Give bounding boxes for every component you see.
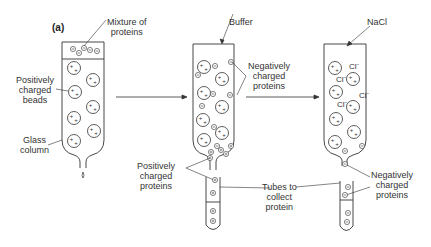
label-line: Positively <box>16 75 54 85</box>
ion-exchange-diagram: + + <box>0 0 431 247</box>
tube-2-proteins <box>210 177 217 223</box>
label-tubes-to-collect-protein: Tubes to collect protein <box>262 182 297 212</box>
label-line: charged <box>16 85 54 95</box>
label-negatively-charged-proteins-1: Negatively charged proteins <box>248 61 290 91</box>
svg-text:Cl−: Cl− <box>349 61 360 71</box>
label-buffer: Buffer <box>229 17 253 27</box>
column-2-positive-proteins <box>207 143 233 160</box>
label-line: beads <box>16 95 54 105</box>
label-positively-charged-proteins: Positively charged proteins <box>137 161 175 191</box>
label-line: proteins <box>371 190 413 200</box>
arrow-1 <box>116 95 187 99</box>
label-line: Glass <box>20 135 49 145</box>
label-line: Negatively <box>371 170 413 180</box>
label-line: proteins <box>137 181 175 191</box>
label-line: charged <box>137 171 175 181</box>
label-line: column <box>20 145 49 155</box>
label-nacl: NaCl <box>367 17 387 27</box>
label-line: Negatively <box>248 61 290 71</box>
column-2-leaders <box>186 14 246 180</box>
label-mixture-of-proteins: Mixture of proteins <box>107 17 147 37</box>
column-1-beads <box>68 62 101 148</box>
label-glass-column: Glass column <box>20 135 49 155</box>
label-line: collect <box>262 192 297 202</box>
label-line: protein <box>262 202 297 212</box>
label-positively-charged-beads: Positively charged beads <box>16 75 54 105</box>
svg-text:Cl−: Cl− <box>336 74 347 84</box>
label-line: Positively <box>137 161 175 171</box>
tube-3-proteins <box>342 184 350 224</box>
label-line: charged <box>248 71 290 81</box>
label-line: Mixture of <box>107 17 147 27</box>
svg-text:Cl−: Cl− <box>337 99 348 109</box>
label-line: charged <box>371 180 413 190</box>
arrow-2 <box>246 95 319 99</box>
label-line: Tubes to <box>262 182 297 192</box>
label-negatively-charged-proteins-2: Negatively charged proteins <box>371 170 413 200</box>
column-1-mixture <box>70 45 99 55</box>
label-line: proteins <box>107 27 147 37</box>
label-line: proteins <box>248 81 290 91</box>
svg-text:Cl−: Cl− <box>359 90 370 100</box>
